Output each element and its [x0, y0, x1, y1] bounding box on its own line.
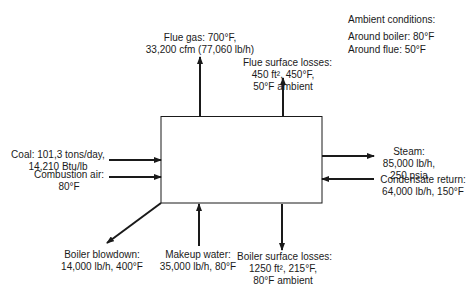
- coal-label-line: Coal: 101,3 tons/day,: [8, 149, 108, 161]
- boiler-blowdown-label-line: Boiler blowdown:: [52, 249, 152, 261]
- flue-surface-losses-line: 50°F ambient: [243, 81, 323, 93]
- makeup-water-label: Makeup water: 35,000 lb/h, 80°F: [153, 249, 243, 273]
- ambient-boiler-line: Around boiler: 80°F: [348, 30, 435, 43]
- condensate-return-label: Condensate return: 64,000 lb/h, 150°F: [376, 174, 470, 198]
- steam-label-line: Steam:: [374, 146, 444, 158]
- ambient-conditions-title: Ambient conditions:: [348, 13, 435, 26]
- ambient-conditions: Ambient conditions: Around boiler: 80°F …: [348, 13, 435, 56]
- boiler-surface-losses-line: 80°F ambient: [237, 275, 329, 287]
- combustion-air-label: Combustion air: 80°F: [30, 169, 108, 193]
- boiler-box: [161, 117, 322, 204]
- flue-surface-losses-line: 450 ft², 450°F,: [243, 69, 323, 81]
- flue-gas-label-line: 33,200 cfm (77,060 lb/h): [140, 44, 260, 56]
- makeup-water-label-line: 35,000 lb/h, 80°F: [153, 261, 243, 273]
- ambient-flue-line: Around flue: 50°F: [348, 43, 435, 56]
- flue-gas-label-line: Flue gas: 700°F,: [140, 32, 260, 44]
- condensate-return-label-line: Condensate return:: [376, 174, 470, 186]
- flue-surface-losses-line: Flue surface losses:: [243, 57, 323, 69]
- combustion-air-label-line: 80°F: [30, 181, 108, 193]
- boiler-blowdown-label-line: 14,000 lb/h, 400°F: [52, 261, 152, 273]
- boiler-blowdown-arrow: [107, 203, 161, 243]
- boiler-surface-losses-label: Boiler surface losses: 1250 ft², 215°F, …: [237, 251, 329, 287]
- makeup-water-label-line: Makeup water:: [153, 249, 243, 261]
- flue-surface-losses-label: Flue surface losses: 450 ft², 450°F, 50°…: [243, 57, 323, 93]
- flue-gas-label: Flue gas: 700°F, 33,200 cfm (77,060 lb/h…: [140, 32, 260, 56]
- combustion-air-label-line: Combustion air:: [30, 169, 108, 181]
- steam-label-line: 85,000 lb/h,: [374, 158, 444, 170]
- boiler-surface-losses-line: 1250 ft², 215°F,: [237, 263, 329, 275]
- boiler-surface-losses-line: Boiler surface losses:: [237, 251, 329, 263]
- boiler-blowdown-label: Boiler blowdown: 14,000 lb/h, 400°F: [52, 249, 152, 273]
- condensate-return-label-line: 64,000 lb/h, 150°F: [376, 186, 470, 198]
